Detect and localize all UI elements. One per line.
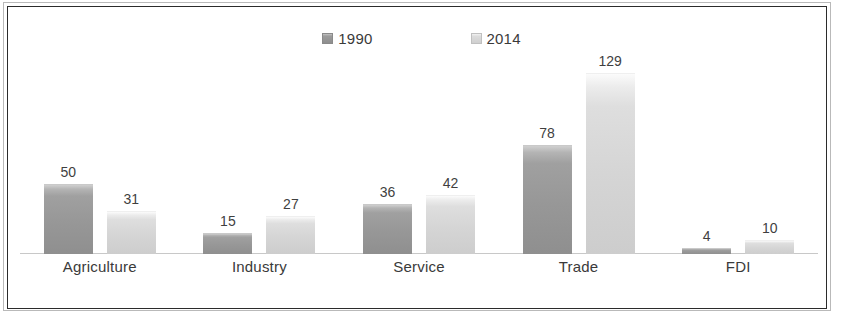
chart-container: 1990 2014 50 31 15 xyxy=(0,0,843,316)
bar-wrap-agriculture-1990: 50 xyxy=(44,58,93,254)
series-1990-swatch-icon xyxy=(322,33,333,44)
bar-trade-1990[interactable] xyxy=(523,145,572,254)
bar-wrap-agriculture-2014: 31 xyxy=(107,58,156,254)
chart-legend: 1990 2014 xyxy=(0,30,843,47)
bar-fdi-2014[interactable] xyxy=(745,240,794,254)
bar-trade-2014[interactable] xyxy=(586,73,635,254)
x-axis-label-industry: Industry xyxy=(180,258,340,275)
bar-group-agriculture: 50 31 xyxy=(20,58,180,254)
bar-agriculture-2014[interactable] xyxy=(107,211,156,254)
x-axis-label-trade: Trade xyxy=(499,258,659,275)
series-2014-swatch-icon xyxy=(471,33,482,44)
bar-wrap-service-2014: 42 xyxy=(426,58,475,254)
bar-group-trade: 78 129 xyxy=(499,58,659,254)
bar-label-fdi-1990: 4 xyxy=(703,228,711,244)
bar-wrap-trade-1990: 78 xyxy=(523,58,572,254)
bar-label-service-1990: 36 xyxy=(380,184,396,200)
bar-wrap-industry-1990: 15 xyxy=(203,58,252,254)
bar-label-agriculture-2014: 31 xyxy=(124,191,140,207)
bar-wrap-service-1990: 36 xyxy=(363,58,412,254)
x-axis-category-labels: Agriculture Industry Service Trade FDI xyxy=(20,258,818,275)
bar-wrap-trade-2014: 129 xyxy=(586,58,635,254)
x-axis-label-service: Service xyxy=(339,258,499,275)
bar-label-service-2014: 42 xyxy=(443,175,459,191)
bar-group-fdi: 4 10 xyxy=(658,58,818,254)
bar-service-1990[interactable] xyxy=(363,204,412,254)
x-axis-label-agriculture: Agriculture xyxy=(20,258,180,275)
bar-label-industry-2014: 27 xyxy=(283,196,299,212)
bar-industry-2014[interactable] xyxy=(266,216,315,254)
legend-label-2014: 2014 xyxy=(487,30,521,47)
bar-agriculture-1990[interactable] xyxy=(44,184,93,254)
bar-wrap-industry-2014: 27 xyxy=(266,58,315,254)
x-axis-label-fdi: FDI xyxy=(658,258,818,275)
plot-area: 50 31 15 27 36 xyxy=(20,58,818,254)
bar-label-trade-1990: 78 xyxy=(539,125,555,141)
bar-service-2014[interactable] xyxy=(426,195,475,254)
bar-wrap-fdi-1990: 4 xyxy=(682,58,731,254)
bar-group-industry: 15 27 xyxy=(180,58,340,254)
bar-label-fdi-2014: 10 xyxy=(762,220,778,236)
bar-label-trade-2014: 129 xyxy=(598,53,621,69)
bar-industry-1990[interactable] xyxy=(203,233,252,254)
bar-label-industry-1990: 15 xyxy=(220,213,236,229)
bar-label-agriculture-1990: 50 xyxy=(61,164,77,180)
bar-group-service: 36 42 xyxy=(339,58,499,254)
bar-groups: 50 31 15 27 36 xyxy=(20,58,818,254)
legend-entry-2014[interactable]: 2014 xyxy=(471,30,521,47)
legend-label-1990: 1990 xyxy=(338,30,372,47)
bar-fdi-1990[interactable] xyxy=(682,248,731,254)
legend-entry-1990[interactable]: 1990 xyxy=(322,30,372,47)
bar-wrap-fdi-2014: 10 xyxy=(745,58,794,254)
